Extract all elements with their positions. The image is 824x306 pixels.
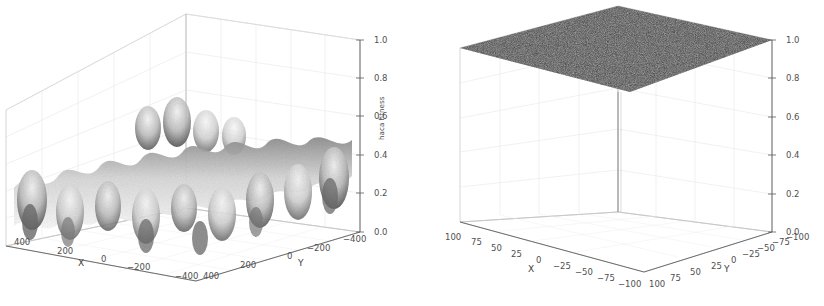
y-axis-label: Y [723, 264, 730, 274]
z-tick-label: 0.4 [786, 150, 800, 160]
y-tick-label: 25 [711, 261, 722, 271]
x-axis-label: X [528, 264, 534, 274]
x-tick-label: −100 [618, 279, 641, 289]
x-tick-label: −200 [127, 262, 150, 272]
z-tick-label: 0.2 [786, 189, 800, 199]
x-tick-label: −25 [553, 261, 571, 271]
z-tick-label: 0.0 [374, 227, 388, 237]
z-axis-label: haca fitness [377, 96, 386, 140]
y-tick-label: −200 [307, 243, 330, 253]
subplot-left: 1.0 0.8 0.6 0.4 0.2 0.0 haca fitness 400… [0, 0, 412, 306]
x-tick-label: 100 [445, 232, 461, 242]
z-tick-label: 0.2 [374, 188, 388, 198]
subplot-right: 1.0 0.8 0.6 0.4 0.2 0.0 100 75 50 25 0 −… [412, 0, 824, 306]
right-plot-svg: 1.0 0.8 0.6 0.4 0.2 0.0 100 75 50 25 0 −… [412, 0, 824, 306]
z-axis-left-plot [356, 40, 364, 232]
x-tick-label: 50 [491, 243, 502, 253]
surface-mesh [14, 97, 352, 255]
y-tick-label: 0 [287, 251, 292, 261]
z-tick-label: 0.8 [786, 73, 800, 83]
x-tick-label: −75 [597, 273, 615, 283]
x-tick-label: 200 [57, 246, 73, 256]
y-tick-label: 400 [203, 271, 219, 281]
y-tick-label: 75 [670, 273, 681, 283]
x-tick-label: 400 [14, 237, 30, 247]
x-axis-right-plot [460, 222, 644, 272]
left-plot-svg: 1.0 0.8 0.6 0.4 0.2 0.0 haca fitness 400… [0, 0, 412, 306]
z-tick-label: 0.8 [374, 73, 388, 83]
x-tick-label: 0 [536, 255, 541, 265]
x-tick-label: 0 [101, 254, 106, 264]
y-tick-label: −100 [786, 232, 809, 242]
x-tick-label: −50 [575, 267, 593, 277]
z-tick-label: 1.0 [786, 35, 800, 45]
y-axis-label: Y [297, 258, 304, 268]
x-tick-label: −400 [175, 271, 198, 281]
axes3d-right: 1.0 0.8 0.6 0.4 0.2 0.0 100 75 50 25 0 −… [412, 0, 824, 306]
plateau-surface [460, 6, 772, 92]
axes3d-left: 1.0 0.8 0.6 0.4 0.2 0.0 haca fitness 400… [0, 0, 412, 306]
y-tick-label: 50 [690, 267, 701, 277]
y-tick-label: 100 [649, 279, 665, 289]
y-tick-label: 0 [731, 255, 736, 265]
x-tick-label: 75 [471, 237, 482, 247]
y-tick-label: −400 [343, 234, 366, 244]
x-tick-label: 25 [511, 249, 522, 259]
x-axis-label: X [78, 258, 84, 268]
right-floor-grid [460, 212, 772, 272]
z-axis-right-plot [768, 40, 776, 232]
z-tick-label: 0.4 [374, 150, 388, 160]
z-tick-label: 0.6 [786, 112, 800, 122]
y-tick-label: 200 [240, 260, 256, 270]
figure-canvas: 1.0 0.8 0.6 0.4 0.2 0.0 haca fitness 400… [0, 0, 824, 306]
z-tick-label: 1.0 [374, 35, 388, 45]
